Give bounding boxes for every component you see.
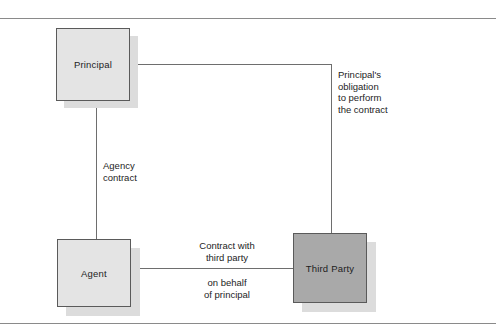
connector-principal-to-agent [96,101,97,239]
caption-contract-with-third-party: Contract with third party [180,240,274,263]
connector-agent-to-third-party [130,268,293,269]
connector-principal-to-third-party-horizontal [130,64,331,65]
caption-on-behalf-of-principal: on behalf of principal [180,277,274,300]
top-rule [0,18,496,19]
node-principal[interactable]: Principal [56,28,130,101]
bottom-rule [0,323,496,324]
node-third-party[interactable]: Third Party [293,233,367,303]
node-agent[interactable]: Agent [57,239,131,307]
caption-agency-contract: Agency contract [103,160,183,183]
node-third-party-label: Third Party [306,263,355,274]
node-principal-label: Principal [74,59,112,70]
caption-principal-obligation: Principal's obligation to perform the co… [338,69,438,115]
node-agent-label: Agent [81,268,107,279]
diagram-canvas: Principal Agent Third Party Principal's … [0,0,496,336]
connector-principal-to-third-party-vertical [331,64,332,234]
